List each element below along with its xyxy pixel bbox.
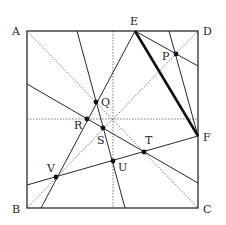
label-b: B xyxy=(12,203,20,216)
line-top-p-f xyxy=(169,31,198,136)
label-c: C xyxy=(203,203,211,216)
point-v xyxy=(54,175,59,180)
label-u: U xyxy=(118,161,127,174)
label-d: D xyxy=(203,25,212,38)
label-p: P xyxy=(162,50,170,63)
label-s: S xyxy=(97,134,105,147)
label-r: R xyxy=(74,119,83,132)
dotted-guides xyxy=(27,31,198,208)
line-top-q-s-u xyxy=(77,31,125,208)
label-v: V xyxy=(46,162,56,175)
point-t xyxy=(142,150,147,155)
point-s xyxy=(101,126,106,131)
label-q: Q xyxy=(101,96,110,109)
geometry-figure: A B C D E F P Q R S T U V xyxy=(0,0,226,225)
point-u xyxy=(111,159,116,164)
label-f: F xyxy=(203,131,211,144)
label-a: A xyxy=(11,25,21,38)
label-t: T xyxy=(145,134,153,147)
point-p xyxy=(174,52,179,57)
point-r xyxy=(85,117,90,122)
labels: A B C D E F P Q R S T U V xyxy=(11,15,212,216)
segment-ef xyxy=(135,31,198,136)
label-e: E xyxy=(130,15,138,28)
point-q xyxy=(94,100,99,105)
